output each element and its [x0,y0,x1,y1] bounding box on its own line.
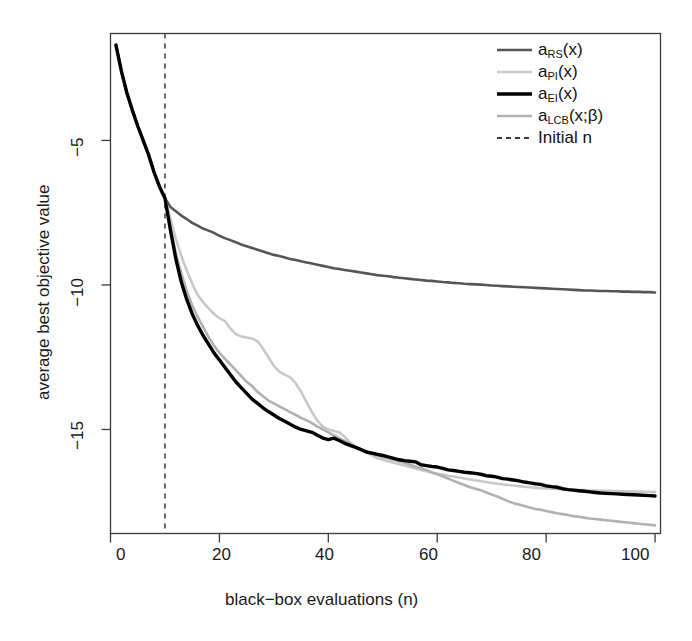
legend-label-lcb-tail: (x;β) [569,106,603,125]
line-chart-canvas [0,0,692,641]
x-tick-label-40: 40 [315,545,334,565]
legend-label-initial: Initial n [538,128,592,148]
legend-label-rs-tail: (x) [563,40,583,59]
x-tick-label-100: 100 [621,545,649,565]
legend-label-ei-sub: EI [547,92,557,104]
legend-label-ei-tail: (x) [558,84,578,103]
legend-label-pi: aPI(x) [538,62,578,82]
legend-label-pi-tail: (x) [558,62,578,81]
y-tick-label-minus15: −15 [68,421,88,450]
legend-label-ei: aEI(x) [538,84,578,104]
y-tick-label-minus10: −10 [68,278,88,307]
legend-label-rs-sub: RS [547,48,562,60]
chart-background [0,0,692,641]
figure-container: average best objective value black−box e… [0,0,692,641]
legend-label-lcb: aLCB(x;β) [538,106,603,126]
legend-label-lcb-sub: LCB [547,114,568,126]
x-tick-label-60: 60 [419,545,438,565]
x-tick-label-20: 20 [212,545,231,565]
y-axis-label: average best objective value [34,185,54,400]
legend-label-rs: aRS(x) [538,40,583,60]
x-tick-label-0: 0 [116,545,125,565]
legend-label-pi-sub: PI [547,70,557,82]
x-tick-label-80: 80 [522,545,541,565]
x-axis-label: black−box evaluations (n) [225,590,418,610]
y-tick-label-minus5: −5 [68,138,88,157]
